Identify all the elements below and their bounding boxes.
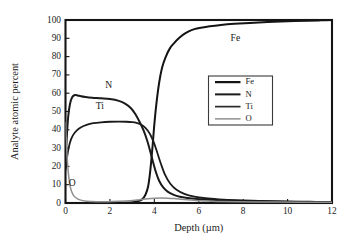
chart-figure: 0102030405060708090100024681012 FeNTiO F… xyxy=(0,0,355,244)
x-tick-label: 8 xyxy=(241,206,246,216)
x-tick-label: 6 xyxy=(196,206,201,216)
legend-label-n: N xyxy=(246,89,253,99)
plot-frame xyxy=(66,20,333,203)
x-tick-label: 10 xyxy=(283,206,293,216)
curve-label-n: N xyxy=(105,79,112,90)
x-tick-label: 0 xyxy=(63,206,68,216)
x-tick-label: 4 xyxy=(152,206,157,216)
x-tick-label: 2 xyxy=(108,206,113,216)
legend-label-ti: Ti xyxy=(246,101,254,111)
x-axis-title: Depth (µm) xyxy=(174,222,223,234)
x-tick-label: 12 xyxy=(327,206,337,216)
curve-label-o: O xyxy=(69,177,76,188)
y-tick-label: 50 xyxy=(52,106,62,116)
series-ti xyxy=(66,122,333,203)
series-fe xyxy=(66,20,333,203)
y-tick-label: 90 xyxy=(52,33,62,43)
legend-label-o: O xyxy=(246,113,252,123)
series-n xyxy=(66,95,333,202)
legend-label-fe: Fe xyxy=(246,76,255,86)
curve-label-ti: Ti xyxy=(96,100,105,111)
axis-ticks: 0102030405060708090100024681012 xyxy=(47,15,337,217)
curve-label-fe: Fe xyxy=(231,32,241,43)
series-curves xyxy=(66,20,333,203)
depth-profile-chart: 0102030405060708090100024681012 FeNTiO F… xyxy=(0,0,355,244)
y-tick-label: 40 xyxy=(52,124,62,134)
y-tick-label: 80 xyxy=(52,51,62,61)
y-tick-label: 100 xyxy=(47,15,61,25)
y-tick-label: 10 xyxy=(52,179,62,189)
y-tick-label: 30 xyxy=(52,143,62,153)
y-tick-label: 20 xyxy=(52,161,62,171)
y-tick-label: 70 xyxy=(52,69,62,79)
y-tick-label: 60 xyxy=(52,88,62,98)
series-o xyxy=(66,122,333,202)
y-tick-label: 0 xyxy=(56,198,61,208)
legend: FeNTiO xyxy=(209,76,273,125)
y-axis-title: Analyte atomic percent xyxy=(9,63,20,160)
legend-box xyxy=(209,76,273,125)
